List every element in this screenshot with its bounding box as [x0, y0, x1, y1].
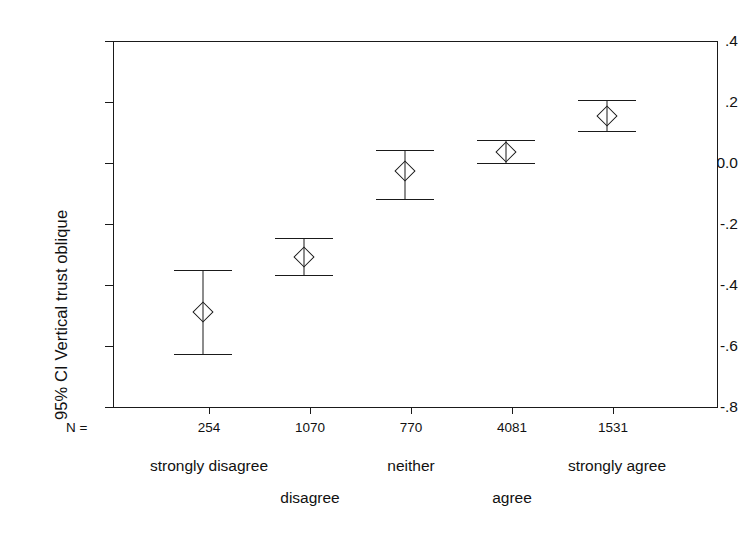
error-bar-cap-upper: [376, 150, 434, 151]
x-category-label-neither: neither: [387, 457, 434, 475]
error-bar-cap-lower: [174, 354, 232, 355]
x-category-label-disagree: disagree: [280, 489, 339, 507]
n-value-strongly-agree: 1531: [598, 420, 628, 435]
error-bar-cap-upper: [275, 238, 333, 239]
plot-area: [113, 41, 718, 408]
x-tick-mark-3: [512, 408, 513, 414]
x-tick-mark-4: [613, 408, 614, 414]
x-tick-mark-2: [411, 408, 412, 414]
error-bar-cap-upper: [174, 270, 232, 271]
n-value-strongly-disagree: 254: [198, 420, 221, 435]
x-category-label-strongly-agree: strongly agree: [568, 457, 666, 475]
n-value-neither: 770: [400, 420, 423, 435]
x-category-label-strongly-disagree: strongly disagree: [150, 457, 268, 475]
error-bar-cap-upper: [578, 100, 636, 101]
mean-diamond-marker: [293, 246, 314, 267]
n-value-disagree: 1070: [295, 420, 325, 435]
chart-container: 95% CI Vertical trust oblique .4 .2 0.0 …: [0, 0, 738, 544]
x-tick-mark-0: [209, 408, 210, 414]
mean-diamond-marker: [192, 301, 213, 322]
x-category-label-agree: agree: [492, 489, 532, 507]
x-tick-mark-1: [310, 408, 311, 414]
error-bar-strongly-disagree: [174, 270, 232, 354]
error-bar-cap-lower: [477, 163, 535, 164]
mean-diamond-marker: [596, 105, 617, 126]
error-bar-cap-lower: [578, 131, 636, 132]
mean-diamond-marker: [495, 141, 516, 162]
error-bar-cap-lower: [275, 275, 333, 276]
mean-diamond-marker: [394, 160, 415, 181]
error-bar-disagree: [275, 238, 333, 275]
error-bar-neither: [376, 150, 434, 199]
error-bar-cap-lower: [376, 199, 434, 200]
n-value-agree: 4081: [497, 420, 527, 435]
n-row-label: N =: [66, 420, 87, 435]
error-bar-strongly-agree: [578, 100, 636, 131]
y-axis-title: 95% CI Vertical trust oblique: [44, 0, 78, 420]
error-bar-agree: [477, 140, 535, 163]
